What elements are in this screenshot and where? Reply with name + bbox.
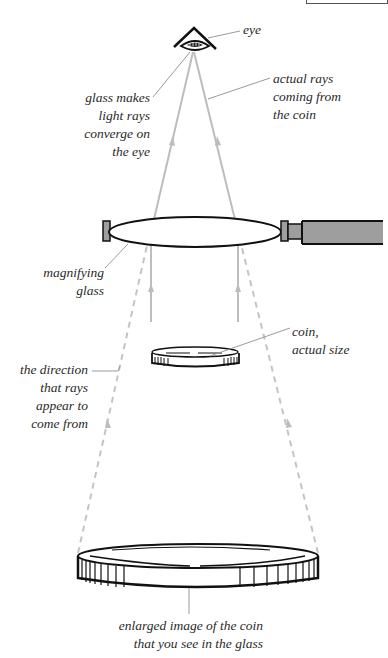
actual-rays [151, 52, 238, 322]
eye-icon [174, 28, 216, 50]
ray-arrows [148, 136, 241, 292]
apparent-ray-arrows [105, 418, 292, 428]
label-magnifying-glass: magnifying glass [43, 264, 104, 300]
label-glass-converge: glass makes light rays converge on the e… [84, 89, 150, 161]
label-eye: eye [243, 21, 261, 39]
lens-icon [103, 217, 383, 247]
label-coin-actual-size: coin, actual size [292, 323, 349, 359]
label-apparent-direction: the direction that rays appear to come f… [20, 361, 88, 433]
apparent-rays [78, 232, 318, 553]
label-actual-rays: actual rays coming from the coin [273, 70, 341, 124]
coin-icon [78, 544, 318, 587]
label-enlarged-image: enlarged image of the coin that you see … [119, 617, 263, 653]
